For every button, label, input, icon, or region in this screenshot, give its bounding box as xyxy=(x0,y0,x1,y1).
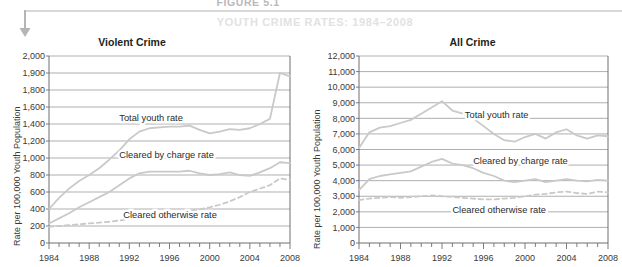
svg-text:1,900: 1,900 xyxy=(22,68,45,78)
series-annotation: Total youth rate xyxy=(119,113,183,123)
svg-text:600: 600 xyxy=(30,187,45,197)
svg-text:0: 0 xyxy=(350,238,355,248)
svg-text:1,800: 1,800 xyxy=(22,85,45,95)
svg-text:2000: 2000 xyxy=(200,253,220,263)
svg-text:1996: 1996 xyxy=(159,253,179,263)
svg-text:9,000: 9,000 xyxy=(332,98,355,108)
svg-text:11,000: 11,000 xyxy=(328,67,355,77)
header-rule xyxy=(24,10,622,12)
svg-text:10,000: 10,000 xyxy=(327,82,355,92)
svg-text:2004: 2004 xyxy=(556,253,576,263)
figure-number: FIGURE 5.1 xyxy=(148,0,348,8)
svg-text:1,600: 1,600 xyxy=(22,102,45,112)
svg-text:200: 200 xyxy=(30,221,45,231)
chart-panel-violent-crime: Violent Crime Rate per 100,000 Youth Pop… xyxy=(0,36,300,267)
svg-text:2008: 2008 xyxy=(598,253,618,263)
svg-text:7,000: 7,000 xyxy=(332,129,355,139)
figure-title: YOUTH CRIME RATES: 1984–2008 xyxy=(150,16,480,28)
svg-text:12,000: 12,000 xyxy=(327,51,355,61)
svg-text:1,000: 1,000 xyxy=(22,153,45,163)
down-arrow-icon xyxy=(17,10,33,38)
svg-text:8,000: 8,000 xyxy=(332,114,355,124)
svg-text:2008: 2008 xyxy=(280,253,300,263)
plot-area-violent-crime: 02004006008001,0001,2001,4001,6001,8001,… xyxy=(0,36,300,267)
plot-area-all-crime: 01,0002,0003,0004,0005,0006,0007,0008,00… xyxy=(303,36,622,267)
svg-text:5,000: 5,000 xyxy=(332,160,355,170)
svg-text:1996: 1996 xyxy=(473,253,493,263)
series-annotation: Cleared otherwise rate xyxy=(452,205,546,215)
svg-text:1992: 1992 xyxy=(432,253,452,263)
svg-text:400: 400 xyxy=(30,204,45,214)
series-annotation: Cleared by charge rate xyxy=(473,156,568,166)
svg-text:2,000: 2,000 xyxy=(22,51,45,61)
svg-text:2000: 2000 xyxy=(515,253,535,263)
svg-text:1,000: 1,000 xyxy=(332,223,355,233)
svg-text:0: 0 xyxy=(40,238,45,248)
series-annotation: Total youth rate xyxy=(465,110,529,120)
series-annotation: Cleared by charge rate xyxy=(119,150,214,160)
series-annotation: Cleared otherwise rate xyxy=(123,210,217,220)
svg-text:1988: 1988 xyxy=(79,253,99,263)
svg-text:4,000: 4,000 xyxy=(332,176,355,186)
svg-text:1,400: 1,400 xyxy=(22,119,45,129)
svg-text:6,000: 6,000 xyxy=(332,145,355,155)
chart-panel-all-crime: All Crime Rate per 100,000 Youth Populat… xyxy=(303,36,622,267)
svg-text:1984: 1984 xyxy=(39,253,59,263)
svg-text:1,200: 1,200 xyxy=(22,136,45,146)
svg-text:1988: 1988 xyxy=(390,253,410,263)
svg-text:800: 800 xyxy=(30,170,45,180)
svg-text:1992: 1992 xyxy=(119,253,139,263)
svg-text:2004: 2004 xyxy=(240,253,260,263)
svg-text:3,000: 3,000 xyxy=(332,191,355,201)
svg-text:2,000: 2,000 xyxy=(332,207,355,217)
svg-text:1984: 1984 xyxy=(349,253,369,263)
